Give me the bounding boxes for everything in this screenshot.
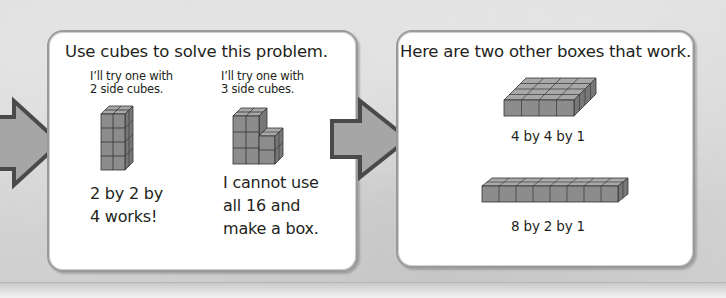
slab-4x4x1-figure: [504, 78, 604, 130]
try-two-side-caption: I’ll try one with 2 side cubes.: [90, 70, 173, 96]
page-bottom-band: [0, 282, 726, 298]
bar-8x2x1-figure: [482, 178, 632, 214]
box-one-label: 4 by 4 by 1: [398, 128, 698, 144]
cube-problem-panel: Use cubes to solve this problem. I’ll tr…: [47, 30, 358, 272]
try-three-side-caption: I’ll try one with 3 side cubes.: [221, 70, 304, 96]
three-side-result: I cannot use all 16 and make a box.: [223, 171, 319, 240]
l-shape-cube-figure: [233, 108, 295, 170]
panel-title: Here are two other boxes that work.: [398, 42, 693, 61]
other-boxes-panel: Here are two other boxes that work. 4 by…: [396, 30, 695, 268]
tower-cube-figure: [101, 106, 141, 178]
panel-title: Use cubes to solve this problem.: [65, 42, 328, 61]
two-side-result: 2 by 2 by 4 works!: [90, 182, 163, 228]
box-two-label: 8 by 2 by 1: [398, 218, 698, 234]
